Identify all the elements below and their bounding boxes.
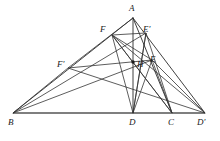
seg-E-C [152,60,172,113]
vertex-markers-layer [131,60,134,63]
point-label-c: C [168,118,174,127]
seg-F-Ep [112,33,146,35]
segments-layer [13,18,205,113]
point-label-h: H [137,60,144,69]
point-label-fp: F' [57,60,64,69]
seg-Ep-C [146,33,172,113]
seg-F-C [112,35,172,113]
seg-F-Dp [112,35,205,113]
point-label-f: F [100,25,106,34]
geometry-figure: ABCDEFHD'E'F' [0,0,220,141]
seg-D-Ep2 [133,33,146,113]
seg-B-Fp [13,68,68,113]
point-label-d: D [129,118,136,127]
point-label-dp: D' [197,118,205,127]
point-label-e: E [150,55,156,64]
vertex-dot-h [131,60,134,63]
cevian-B-Ep [13,33,146,113]
point-label-ep: E' [143,25,150,34]
point-label-b: B [8,118,14,127]
point-label-a: A [129,4,135,13]
figure-canvas [0,0,220,141]
seg-E-Dp [152,60,205,113]
